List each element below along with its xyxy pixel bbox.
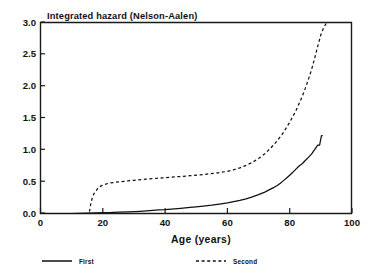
legend-label-first: First [79,258,95,265]
y-tick-label: 0.0 [23,208,36,219]
y-tick-label: 2.5 [23,48,37,59]
y-tick-label: 1.5 [23,112,37,123]
x-tick-label: 60 [222,217,233,228]
x-tick-label: 40 [160,217,171,228]
y-tick-label: 0.5 [23,176,37,187]
x-tick-label: 100 [344,217,360,228]
x-tick-label: 0 [38,217,43,228]
nelson-aalen-plot: Integrated hazard (Nelson-Aalen) 0.0 0.5… [0,0,382,275]
chart-figure: Integrated hazard (Nelson-Aalen) 0.0 0.5… [0,0,382,275]
y-tick-label: 1.0 [23,144,36,155]
y-tick-label: 3.0 [23,17,36,28]
x-tick-label: 20 [97,217,108,228]
x-axis-label: Age (years) [171,234,231,245]
x-tick-label: 80 [284,217,295,228]
legend-label-second: Second [233,258,257,265]
y-tick-label: 2.0 [23,80,36,91]
chart-title: Integrated hazard (Nelson-Aalen) [47,11,197,21]
